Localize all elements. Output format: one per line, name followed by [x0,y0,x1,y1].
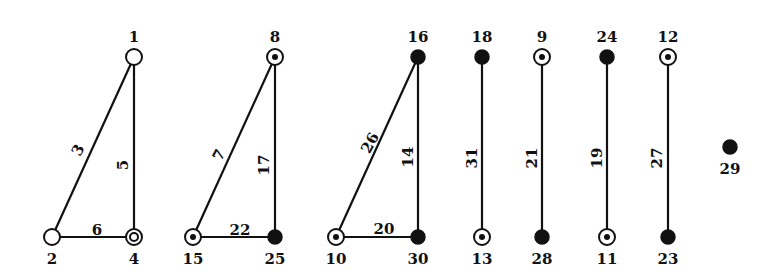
edge-label: 27 [648,148,666,169]
node-25-filled-circle-icon [268,230,282,244]
node-18-filled-circle-icon [475,50,489,64]
node-4-double-circle-icon [126,229,142,245]
edge-7 [193,57,275,237]
nodes [44,49,737,245]
node-8-dot-circle-icon [267,49,283,65]
node-28-filled-circle-icon [535,230,549,244]
edge-labels: 3567172226142031211927 [68,130,666,239]
node-label: 2 [47,250,57,268]
edge-label: 22 [230,221,251,239]
edge-label: 3 [68,141,89,159]
edge-label: 31 [463,148,481,169]
edge-label: 20 [374,220,395,238]
node-23-filled-circle-icon [661,230,675,244]
edge-label: 26 [357,130,383,157]
node-label: 13 [472,250,493,268]
node-2-open-circle-icon [44,229,60,245]
edge-label: 14 [399,147,417,168]
node-label: 10 [326,250,347,268]
node-1-open-circle-icon [126,49,142,65]
edge-3 [52,57,134,237]
node-13-dot-circle-icon [474,229,490,245]
node-label: 15 [183,250,204,268]
node-label: 29 [720,160,741,178]
graph-diagram: 3567172226142031211927 12481525161030181… [0,0,768,279]
node-16-filled-circle-icon [411,50,425,64]
node-label: 24 [597,28,618,46]
node-29-filled-circle-icon [723,140,737,154]
node-label: 25 [265,250,286,268]
edge-label: 6 [92,221,102,239]
node-label: 28 [532,250,553,268]
edge-label: 7 [209,146,230,164]
node-24-filled-circle-icon [600,50,614,64]
node-label: 16 [408,28,429,46]
node-label: 12 [658,28,679,46]
node-11-dot-circle-icon [599,229,615,245]
node-label: 18 [472,28,493,46]
node-30-filled-circle-icon [411,230,425,244]
node-label: 9 [537,28,547,46]
node-12-dot-circle-icon [660,49,676,65]
node-label: 11 [597,250,618,268]
node-label: 8 [270,28,280,46]
node-label: 1 [129,28,139,46]
edge-label: 17 [255,155,273,176]
node-label: 23 [658,250,679,268]
edge-label: 21 [523,148,541,169]
node-label: 4 [129,250,139,268]
edge-label: 19 [588,148,606,169]
node-10-dot-circle-icon [328,229,344,245]
edge-label: 5 [114,160,132,170]
node-15-dot-circle-icon [185,229,201,245]
node-9-dot-circle-icon [534,49,550,65]
node-label: 30 [408,250,429,268]
